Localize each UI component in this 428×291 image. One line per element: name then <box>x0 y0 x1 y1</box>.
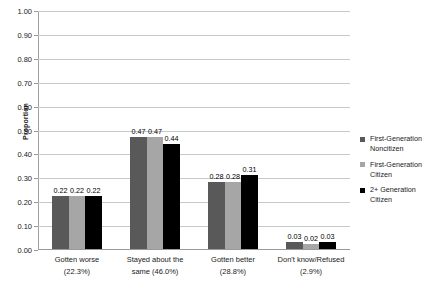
y-axis-tick <box>34 11 38 12</box>
bar: 0.28 <box>225 182 242 249</box>
category-label: Don't know/Refused(2.9%) <box>264 254 358 277</box>
bar-value-label: 0.22 <box>70 186 84 195</box>
bar-value-label: 0.31 <box>243 165 257 174</box>
y-axis-tick-label: 0.40 <box>17 150 32 159</box>
legend-label-line: Noncitizen <box>370 144 428 154</box>
legend-label-line: 2+ Generation <box>370 185 428 195</box>
y-axis-tick-label: 0.50 <box>17 126 32 135</box>
bar-value-label: 0.47 <box>132 127 146 136</box>
y-axis-tick <box>34 202 38 203</box>
bar-value-label: 0.28 <box>210 172 224 181</box>
bar-group: 0.220.220.22 <box>52 11 102 249</box>
y-axis-tick-label: 1.00 <box>17 7 32 16</box>
bar-value-label: 0.22 <box>54 186 68 195</box>
y-axis-tick-label: 0.80 <box>17 54 32 63</box>
bar-group: 0.280.280.31 <box>208 11 258 249</box>
legend-label-line: First-Generation <box>370 134 428 144</box>
legend-swatch-icon <box>360 162 365 167</box>
bar-value-label: 0.28 <box>226 172 240 181</box>
y-axis-tick-label: 0.20 <box>17 198 32 207</box>
plot-area: 1.000.900.800.700.600.500.400.300.200.10… <box>38 11 350 250</box>
y-axis-tick <box>34 83 38 84</box>
bar: 0.22 <box>85 196 102 249</box>
bar-value-label: 0.03 <box>321 232 335 241</box>
category-label-line: (2.9%) <box>264 266 358 278</box>
bar: 0.22 <box>69 196 86 249</box>
bar: 0.31 <box>241 175 258 249</box>
y-axis-tick <box>34 250 38 251</box>
y-axis-tick-label: 0.30 <box>17 174 32 183</box>
legend-label-line: Citizen <box>370 195 428 205</box>
bar-group: 0.470.470.44 <box>130 11 180 249</box>
bar-value-label: 0.03 <box>288 232 302 241</box>
y-axis-tick-label: 0.60 <box>17 102 32 111</box>
legend-label-line: Citizen <box>370 170 428 180</box>
legend-item[interactable]: First-GenerationCitizen <box>360 160 428 180</box>
legend-label: First-GenerationNoncitizen <box>370 134 428 154</box>
bar-group: 0.030.020.03 <box>286 11 336 249</box>
bar: 0.28 <box>208 182 225 249</box>
bar: 0.02 <box>303 244 320 249</box>
bar: 0.47 <box>147 137 164 249</box>
category-label-line: Don't know/Refused <box>264 254 358 266</box>
legend-label-line: First-Generation <box>370 160 428 170</box>
bar-value-label: 0.44 <box>165 134 179 143</box>
y-axis-tick <box>34 154 38 155</box>
bar: 0.22 <box>52 196 69 249</box>
y-axis-tick-label: 0.10 <box>17 222 32 231</box>
bar-value-label: 0.22 <box>87 186 101 195</box>
bar: 0.03 <box>319 242 336 249</box>
legend-item[interactable]: First-GenerationNoncitizen <box>360 134 428 154</box>
y-axis-tick-label: 0.70 <box>17 78 32 87</box>
y-axis-tick <box>34 226 38 227</box>
x-axis-line <box>38 249 350 250</box>
bar: 0.44 <box>163 144 180 249</box>
legend: First-GenerationNoncitizenFirst-Generati… <box>360 134 428 211</box>
y-axis-tick <box>34 107 38 108</box>
y-axis-tick-label: 0.90 <box>17 30 32 39</box>
bar: 0.03 <box>286 242 303 249</box>
legend-swatch-icon <box>360 188 365 193</box>
y-axis-tick <box>34 59 38 60</box>
bar-chart: Proportion 1.000.900.800.700.600.500.400… <box>0 0 428 291</box>
legend-label: First-GenerationCitizen <box>370 160 428 180</box>
y-axis-tick <box>34 131 38 132</box>
y-axis-tick <box>34 35 38 36</box>
bar: 0.47 <box>130 137 147 249</box>
bar-value-label: 0.02 <box>304 234 318 243</box>
legend-swatch-icon <box>360 137 365 142</box>
legend-item[interactable]: 2+ GenerationCitizen <box>360 185 428 205</box>
bar-value-label: 0.47 <box>148 127 162 136</box>
legend-label: 2+ GenerationCitizen <box>370 185 428 205</box>
y-axis-tick <box>34 178 38 179</box>
